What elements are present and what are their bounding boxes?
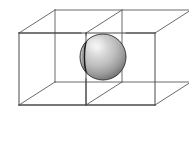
figure-root (0, 0, 189, 143)
sphere-group (80, 34, 126, 80)
wireframe-box-with-sphere-figure (0, 0, 189, 143)
